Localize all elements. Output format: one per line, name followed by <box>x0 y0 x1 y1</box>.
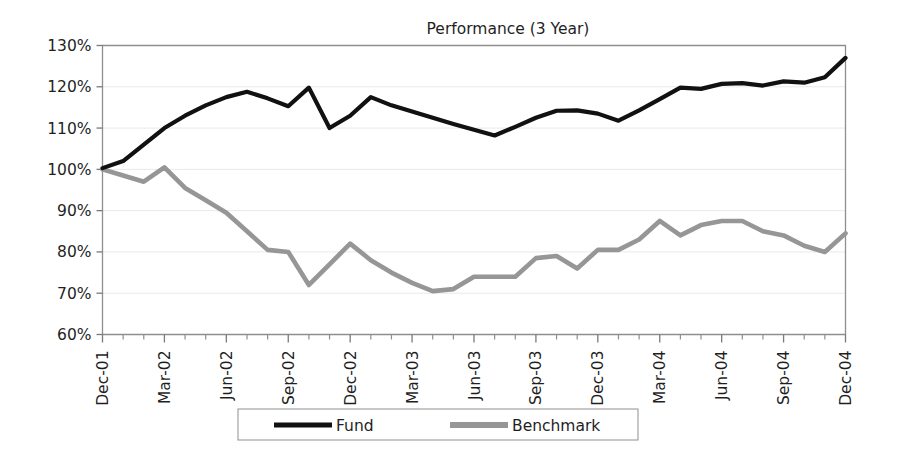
y-axis-ticks <box>97 46 103 335</box>
plot-area-border <box>103 46 846 335</box>
x-axis-tick-label: Mar-03 <box>404 351 422 405</box>
y-axis-tick-label: 120% <box>47 78 91 96</box>
x-axis-tick-labels: Dec-01Mar-02Jun-02Sep-02Dec-02Mar-03Jun-… <box>94 351 855 406</box>
legend-label-benchmark: Benchmark <box>512 417 600 435</box>
y-axis-tick-label: 90% <box>57 202 91 220</box>
x-axis-tick-label: Dec-04 <box>837 351 855 406</box>
y-axis-tick-label: 60% <box>57 326 91 344</box>
x-axis-tick-label: Mar-02 <box>156 351 174 405</box>
performance-chart: 60%70%80%90%100%110%120%130% Dec-01Mar-0… <box>0 0 897 463</box>
series-line-benchmark <box>103 167 846 291</box>
chart-legend: FundBenchmark <box>238 409 638 440</box>
x-axis-tick-label: Jun-03 <box>466 351 484 402</box>
x-axis-tick-label: Sep-04 <box>775 351 793 406</box>
gridlines-group <box>103 87 846 293</box>
x-axis-ticks <box>103 335 846 343</box>
plot-border <box>103 46 846 335</box>
x-axis-tick-label: Dec-01 <box>94 351 112 406</box>
y-axis-tick-label: 100% <box>47 161 91 179</box>
x-axis-tick-label: Dec-02 <box>342 351 360 406</box>
y-axis-tick-labels: 60%70%80%90%100%110%120%130% <box>47 37 91 344</box>
y-axis-tick-label: 80% <box>57 243 91 261</box>
x-axis-tick-label: Jun-04 <box>713 351 731 402</box>
chart-title: Performance (3 Year) <box>427 20 590 38</box>
chart-canvas: 60%70%80%90%100%110%120%130% Dec-01Mar-0… <box>0 0 897 463</box>
y-axis-tick-label: 130% <box>47 37 91 55</box>
x-axis-tick-label: Dec-03 <box>589 351 607 406</box>
y-axis-tick-label: 70% <box>57 285 91 303</box>
series-group <box>103 58 846 291</box>
legend-label-fund: Fund <box>336 417 374 435</box>
x-axis-tick-label: Jun-02 <box>218 351 236 402</box>
x-axis-tick-label: Sep-03 <box>527 351 545 406</box>
y-axis-tick-label: 110% <box>47 120 91 138</box>
x-axis-tick-label: Sep-02 <box>280 351 298 406</box>
series-line-fund <box>103 58 846 168</box>
x-axis-tick-label: Mar-04 <box>651 351 669 405</box>
